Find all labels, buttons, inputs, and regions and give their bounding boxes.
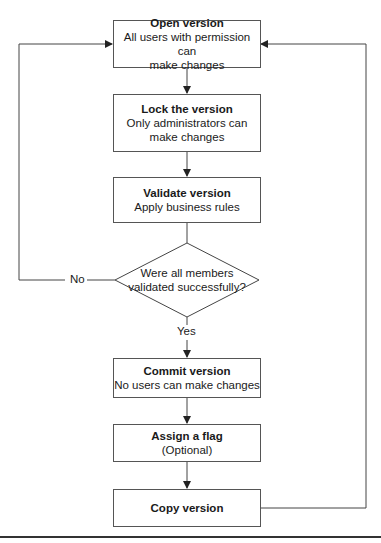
copy-version-title: Copy version <box>151 501 224 515</box>
assign-flag-desc: (Optional) <box>162 443 213 457</box>
decision-text: Were all members validated successfully? <box>127 266 247 294</box>
lock-version-desc-2: make changes <box>150 130 225 144</box>
decision-line-2: validated successfully? <box>127 280 247 294</box>
assign-flag-title: Assign a flag <box>151 429 223 443</box>
commit-version-desc: No users can make changes <box>114 378 260 392</box>
copy-version-box: Copy version <box>113 489 261 527</box>
validate-version-box: Validate version Apply business rules <box>113 177 261 223</box>
decision-line-1: Were all members <box>127 266 247 280</box>
yes-label: Yes <box>175 325 198 337</box>
no-label: No <box>68 273 87 285</box>
open-version-box: Open version All users with permission c… <box>113 20 261 68</box>
commit-version-box: Commit version No users can make changes <box>113 358 261 398</box>
validate-version-desc: Apply business rules <box>134 200 239 214</box>
validate-version-title: Validate version <box>143 186 231 200</box>
lock-version-desc-1: Only administrators can <box>127 116 248 130</box>
assign-flag-box: Assign a flag (Optional) <box>113 424 261 462</box>
lock-version-title: Lock the version <box>141 102 232 116</box>
open-version-title: Open version <box>150 16 224 30</box>
lock-version-box: Lock the version Only administrators can… <box>113 94 261 152</box>
open-version-desc-2: make changes <box>150 58 225 72</box>
commit-version-title: Commit version <box>144 364 231 378</box>
open-version-desc-1: All users with permission can <box>114 30 260 58</box>
